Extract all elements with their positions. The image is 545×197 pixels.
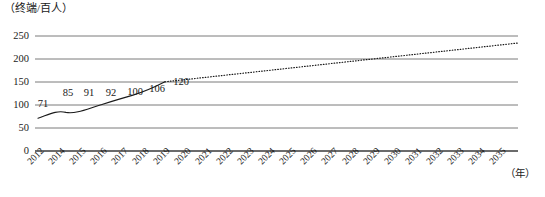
y-tick-label-250: 250: [3, 31, 29, 42]
data-label-2018: 106: [149, 84, 165, 95]
data-label-2012: 71: [38, 99, 49, 110]
series-actual-line: [38, 82, 165, 119]
data-label-2019: 120: [173, 77, 189, 88]
y-tick-label-200: 200: [3, 54, 29, 65]
y-tick-label-0: 0: [3, 146, 29, 157]
y-tick-label-50: 50: [3, 123, 29, 134]
gridline-group: [35, 36, 518, 128]
data-label-2014: 85: [63, 88, 74, 99]
data-label-2016: 92: [106, 88, 117, 99]
y-tick-label-150: 150: [3, 77, 29, 88]
data-label-2017: 100: [127, 87, 143, 98]
chart-container: （终端/百人） 250 200 150 100 50 0 71 85 91 92…: [0, 0, 545, 197]
chart-plot-area: [0, 0, 545, 197]
y-tick-label-100: 100: [3, 100, 29, 111]
data-label-2015: 91: [84, 88, 95, 99]
x-axis-unit-label: （年）: [505, 169, 535, 180]
series-forecast-line: [165, 43, 518, 82]
